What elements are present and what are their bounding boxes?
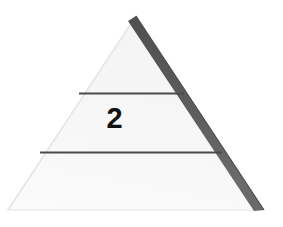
pyramid-level-2-label: 2: [0, 104, 256, 133]
pyramid-figure: 2: [0, 0, 283, 227]
